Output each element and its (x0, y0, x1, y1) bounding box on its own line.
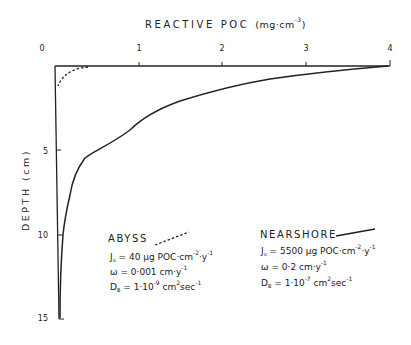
abyss-curve (58, 67, 88, 86)
db-sub: B (268, 283, 271, 289)
omega-value: = 0·001 cm·y (120, 267, 181, 277)
db-tail: sec (331, 278, 346, 288)
legend-nearshore-db: DB = 1·10-7 cm2sec-1 (261, 278, 352, 288)
db-symbol: D (261, 278, 268, 288)
omega-symbol: ω (110, 267, 118, 277)
db-exp1: -7 (305, 275, 311, 282)
jo-exp2: -1 (207, 249, 213, 256)
db-value: = 1·10 (123, 282, 153, 292)
jo-value: = 40 µg POC·cm (119, 252, 193, 262)
legend-abyss-jo: Jo = 40 µg POC·cm-2·y-1 (110, 252, 213, 262)
legend-abyss-title: ABYSS (108, 233, 148, 244)
omega-exp: -1 (321, 259, 327, 266)
jo-value: = 5500 µg POC·cm (270, 246, 356, 256)
db-exp2: 2 (176, 279, 180, 286)
db-symbol: D (110, 282, 117, 292)
omega-value: = 0·2 cm·y (271, 262, 320, 272)
db-sub: B (117, 287, 120, 293)
db-value: = 1·10 (274, 278, 304, 288)
jo-mid: ·y (361, 246, 369, 256)
legend-abyss-db: DB = 1·10-9 cm2sec-1 (110, 282, 201, 292)
db-exp3: -1 (346, 275, 352, 282)
db-exp3: -1 (195, 279, 201, 286)
db-exp2: 2 (327, 275, 331, 282)
legend-nearshore-omega: ω = 0·2 cm·y-1 (261, 262, 327, 272)
db-mid: cm (160, 282, 177, 292)
legend-nearshore-swatch (336, 229, 375, 236)
legend-nearshore-jo: Jo = 5500 µg POC·cm-2·y-1 (261, 246, 376, 256)
legend-abyss-swatch (155, 232, 189, 245)
plot-area (0, 0, 411, 345)
x-axis-ticks (139, 60, 390, 66)
omega-symbol: ω (261, 262, 269, 272)
legend-nearshore-title: NEARSHORE (260, 229, 337, 240)
jo-exp2: -1 (370, 243, 376, 250)
db-exp1: -9 (154, 279, 160, 286)
jo-exp1: -2 (355, 243, 361, 250)
jo-sub: o (113, 257, 116, 263)
jo-mid: ·y (199, 252, 207, 262)
y-axis-line (55, 66, 59, 319)
db-tail: sec (180, 282, 195, 292)
db-mid: cm (311, 278, 328, 288)
omega-exp: -1 (181, 264, 187, 271)
legend-abyss-omega: ω = 0·001 cm·y-1 (110, 267, 187, 277)
jo-sub: o (264, 251, 267, 257)
jo-exp1: -2 (193, 249, 199, 256)
